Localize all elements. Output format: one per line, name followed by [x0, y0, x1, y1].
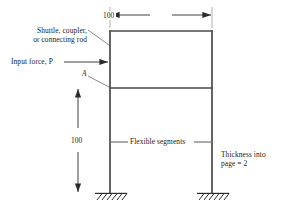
- ground-support-right: [197, 193, 229, 200]
- shuttle-leader-stroke: [88, 30, 109, 45]
- ground-support-left: [95, 193, 127, 200]
- horizontal-dimension-100: [110, 7, 212, 28]
- input-force-text: Input force,: [11, 57, 47, 66]
- width-dimension-value: 100: [101, 11, 116, 20]
- engineering-figure: Shuttle, coupler, or connecting rod Inpu…: [0, 0, 289, 213]
- shuttle-label-line2: or connecting rod: [33, 35, 87, 44]
- shuttle-label-line1: Shuttle, coupler,: [37, 26, 87, 35]
- thickness-note-line1: Thickness into: [221, 150, 266, 159]
- ground-hatch-right: [199, 194, 229, 200]
- input-force-label: Input force, P: [11, 58, 53, 67]
- frame-structure: [109, 30, 212, 193]
- point-a-leader-line: [88, 76, 109, 87]
- shuttle-leader-line: [88, 30, 109, 45]
- point-a-label: A: [82, 70, 87, 79]
- thickness-note-line2: page = 2: [221, 159, 247, 168]
- ground-hatch-left: [97, 194, 127, 200]
- thickness-note: Thickness into page = 2: [221, 150, 266, 168]
- input-force-symbol: P: [49, 57, 53, 66]
- point-a-leader-stroke: [88, 76, 109, 87]
- flexible-segments-label: Flexible segments: [130, 138, 185, 147]
- height-dimension-value: 100: [69, 136, 84, 145]
- shuttle-coupler-label: Shuttle, coupler, or connecting rod: [17, 26, 87, 44]
